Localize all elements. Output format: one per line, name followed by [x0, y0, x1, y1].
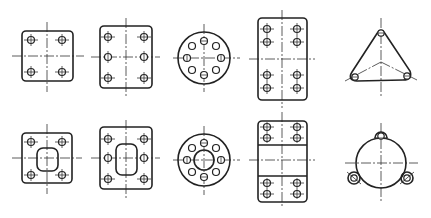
- hole: [189, 145, 196, 152]
- hole: [189, 43, 196, 50]
- figure-circle-3-lugs: [345, 123, 418, 203]
- figure-rect-8-holes-split: [249, 112, 315, 208]
- figure-square-4-holes-opening: [12, 124, 82, 194]
- hole: [189, 169, 196, 176]
- hole: [213, 169, 220, 176]
- hole: [189, 67, 196, 74]
- central-opening: [37, 148, 58, 171]
- hole-crosshairs: [24, 136, 69, 181]
- hole-group: [24, 136, 69, 181]
- hole: [213, 67, 220, 74]
- figure-circle-8-holes: [173, 24, 240, 92]
- centerline-diagonal-right: [381, 62, 417, 80]
- figure-square-4-holes: [12, 22, 84, 92]
- figure-rect-8-holes-paired: [249, 10, 315, 108]
- figure-rect-6-holes: [91, 18, 160, 98]
- plate-outline: [258, 121, 307, 202]
- figure-ring-8-holes: [173, 126, 240, 195]
- central-opening: [116, 144, 137, 175]
- figure-triangle-3-holes: [345, 18, 417, 96]
- figure-rect-6-holes-opening: [91, 120, 160, 200]
- hole: [213, 145, 220, 152]
- bolt-pattern-diagram: Bolt hole arrangement patterns: [0, 0, 431, 218]
- hole: [213, 43, 220, 50]
